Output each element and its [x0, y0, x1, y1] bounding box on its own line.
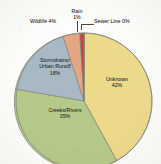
pie-label-stormdrains-value: 18% [27, 70, 83, 76]
pie-label-unknown-value: 42% [96, 82, 138, 88]
sewer-line-leader-line [81, 24, 94, 25]
sewer-line-leader-tick [81, 24, 82, 30]
pie-label-unknown: Unknown 42% [96, 76, 138, 88]
pie-label-wildlife: Wildlife 4% [30, 18, 78, 24]
pie-label-sewer-line: Sewer Line 0% [94, 18, 154, 24]
pie-slices-group [14, 33, 152, 164]
pie-label-wildlife-text: Wildlife 4% [30, 18, 78, 24]
pie-label-creeks-rivers-value: 35% [38, 113, 92, 119]
pie-label-sewer-line-text: Sewer Line 0% [94, 18, 154, 24]
pie-chart-figure: Rain 1% Sewer Line 0% Wildlife 4% Unknow… [0, 0, 161, 164]
pie-label-stormdrains-urban-runoff: Stormdrains/ Urban Runoff 18% [27, 57, 83, 76]
pie-label-creeks-rivers: Creeks/Rivers 35% [38, 107, 92, 119]
